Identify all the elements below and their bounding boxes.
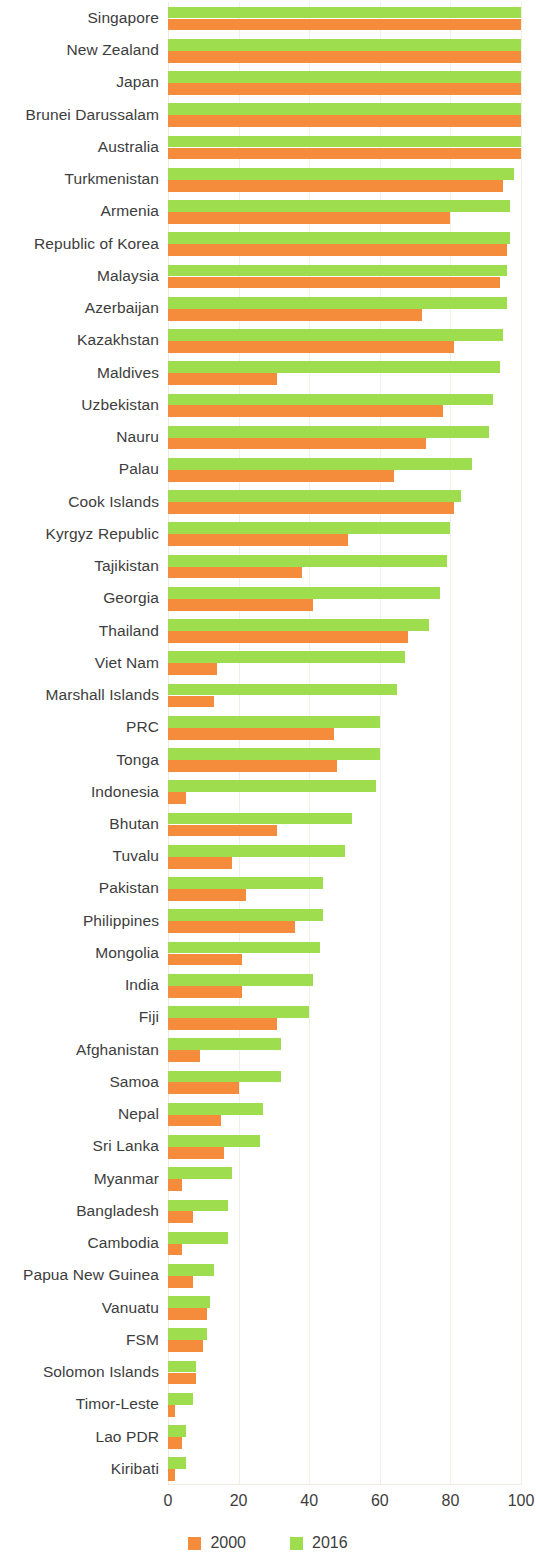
bar-2016[interactable] (168, 1264, 214, 1276)
bar-2016[interactable] (168, 232, 510, 244)
bar-2000[interactable] (168, 1082, 239, 1094)
category-label: PRC (126, 711, 159, 743)
bar-2000[interactable] (168, 1437, 182, 1449)
bar-2000[interactable] (168, 373, 277, 385)
bar-2016[interactable] (168, 265, 507, 277)
bar-2016[interactable] (168, 361, 500, 373)
bar-2000[interactable] (168, 825, 277, 837)
bar-2016[interactable] (168, 1006, 309, 1018)
bar-2000[interactable] (168, 1018, 277, 1030)
bar-2000[interactable] (168, 1050, 200, 1062)
bar-2016[interactable] (168, 39, 521, 51)
bar-2000[interactable] (168, 309, 422, 321)
bar-2016[interactable] (168, 426, 489, 438)
bar-2016[interactable] (168, 103, 521, 115)
bar-2000[interactable] (168, 1179, 182, 1191)
bar-2016[interactable] (168, 780, 376, 792)
bar-2016[interactable] (168, 458, 472, 470)
bar-2000[interactable] (168, 663, 217, 675)
bar-2000[interactable] (168, 728, 334, 740)
bar-2000[interactable] (168, 1115, 221, 1127)
bar-2016[interactable] (168, 1296, 210, 1308)
bar-2016[interactable] (168, 909, 323, 921)
bar-2016[interactable] (168, 1200, 228, 1212)
bar-2000[interactable] (168, 1211, 193, 1223)
bar-2016[interactable] (168, 942, 320, 954)
bar-2016[interactable] (168, 1135, 260, 1147)
bar-2000[interactable] (168, 115, 521, 127)
bar-2000[interactable] (168, 954, 242, 966)
bar-2016[interactable] (168, 7, 521, 19)
bar-2016[interactable] (168, 555, 447, 567)
bar-2016[interactable] (168, 587, 440, 599)
bar-2016[interactable] (168, 1393, 193, 1405)
bar-2016[interactable] (168, 490, 461, 502)
bar-2000[interactable] (168, 631, 408, 643)
bar-2000[interactable] (168, 244, 507, 256)
bar-2016[interactable] (168, 297, 507, 309)
chart-row: Malaysia (168, 260, 521, 292)
legend-item-2016[interactable]: 2016 (290, 1534, 348, 1552)
bar-2000[interactable] (168, 1373, 196, 1385)
bar-2000[interactable] (168, 1469, 175, 1481)
bar-2000[interactable] (168, 1405, 175, 1417)
bar-2000[interactable] (168, 277, 500, 289)
bar-2016[interactable] (168, 716, 380, 728)
bar-2000[interactable] (168, 148, 521, 160)
bar-2000[interactable] (168, 1340, 203, 1352)
bar-2016[interactable] (168, 684, 397, 696)
bar-2000[interactable] (168, 857, 232, 869)
category-label: Cook Islands (68, 486, 159, 518)
bar-2016[interactable] (168, 1232, 228, 1244)
chart-row: Azerbaijan (168, 292, 521, 324)
bar-2016[interactable] (168, 1425, 186, 1437)
bar-2000[interactable] (168, 534, 348, 546)
bar-2016[interactable] (168, 71, 521, 83)
bar-2016[interactable] (168, 748, 380, 760)
bar-2016[interactable] (168, 200, 510, 212)
bar-2000[interactable] (168, 83, 521, 95)
bar-2016[interactable] (168, 845, 345, 857)
bar-2016[interactable] (168, 651, 405, 663)
bar-2016[interactable] (168, 168, 514, 180)
bar-2000[interactable] (168, 51, 521, 63)
bar-2016[interactable] (168, 1457, 186, 1469)
bar-2000[interactable] (168, 599, 313, 611)
bar-2000[interactable] (168, 760, 337, 772)
bar-2000[interactable] (168, 19, 521, 31)
bar-2000[interactable] (168, 1308, 207, 1320)
bar-2016[interactable] (168, 1167, 232, 1179)
legend-item-2000[interactable]: 2000 (188, 1534, 246, 1552)
bar-2000[interactable] (168, 405, 443, 417)
bar-2000[interactable] (168, 1147, 224, 1159)
bar-2016[interactable] (168, 1328, 207, 1340)
bar-2016[interactable] (168, 619, 429, 631)
bar-2000[interactable] (168, 1244, 182, 1256)
bar-2000[interactable] (168, 792, 186, 804)
bar-2000[interactable] (168, 438, 426, 450)
bar-2016[interactable] (168, 813, 352, 825)
bar-2000[interactable] (168, 696, 214, 708)
bar-2000[interactable] (168, 921, 295, 933)
bar-2016[interactable] (168, 877, 323, 889)
bar-2016[interactable] (168, 1071, 281, 1083)
bar-2016[interactable] (168, 522, 450, 534)
bar-2000[interactable] (168, 341, 454, 353)
bar-2016[interactable] (168, 1038, 281, 1050)
bar-2000[interactable] (168, 180, 503, 192)
bar-2016[interactable] (168, 974, 313, 986)
bar-2016[interactable] (168, 1103, 263, 1115)
bar-2016[interactable] (168, 329, 503, 341)
bar-2000[interactable] (168, 502, 454, 514)
bar-2000[interactable] (168, 470, 394, 482)
chart-row: Nepal (168, 1098, 521, 1130)
horizontal-bar-chart: SingaporeNew ZealandJapanBrunei Darussal… (0, 0, 536, 1566)
bar-2000[interactable] (168, 889, 246, 901)
bar-2000[interactable] (168, 567, 302, 579)
bar-2016[interactable] (168, 136, 521, 148)
bar-2000[interactable] (168, 1276, 193, 1288)
bar-2016[interactable] (168, 394, 493, 406)
bar-2000[interactable] (168, 986, 242, 998)
bar-2000[interactable] (168, 212, 450, 224)
bar-2016[interactable] (168, 1361, 196, 1373)
